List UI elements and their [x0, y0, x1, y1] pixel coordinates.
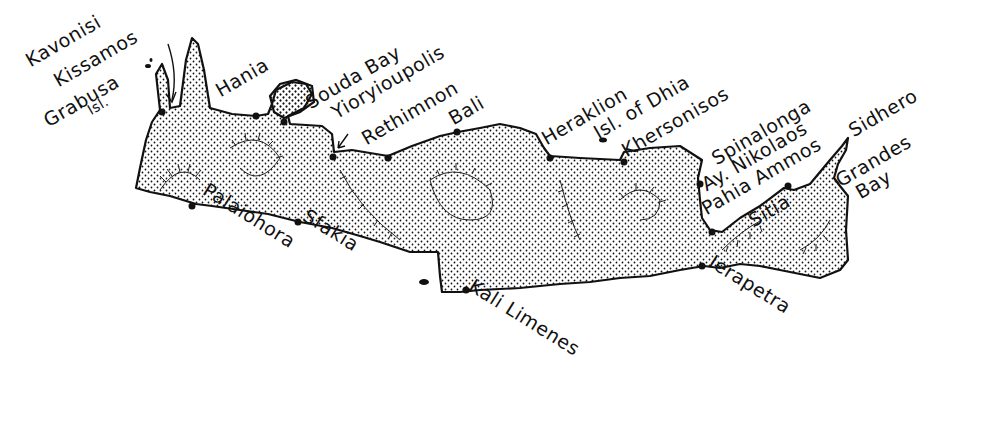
gavdos-islet	[419, 279, 429, 285]
town-dot	[621, 159, 628, 166]
yioryioupolis-arrow	[338, 134, 348, 148]
town-dot	[785, 183, 792, 190]
kavonisi-islet	[150, 58, 153, 62]
town-dot	[189, 203, 196, 210]
town-dot	[330, 154, 337, 161]
crete-map	[0, 0, 986, 422]
town-dot	[709, 229, 716, 236]
grabusa-islet	[145, 64, 151, 68]
town-dot	[547, 155, 554, 162]
town-dot	[385, 155, 392, 162]
town-dot	[454, 129, 461, 136]
town-dot	[253, 113, 260, 120]
town-dot	[159, 109, 166, 116]
town-dot	[281, 119, 288, 126]
